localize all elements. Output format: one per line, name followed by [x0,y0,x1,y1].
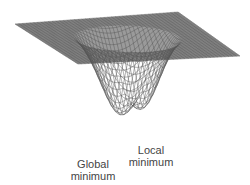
local-minimum-label-line2: minimum [124,156,178,168]
global-minimum-label-line2: minimum [66,170,120,182]
local-minimum-label-line1: Local [124,144,178,156]
local-minimum-label: Local minimum [124,144,178,168]
global-minimum-label-line1: Global [66,158,120,170]
global-minimum-label: Global minimum [66,158,120,182]
